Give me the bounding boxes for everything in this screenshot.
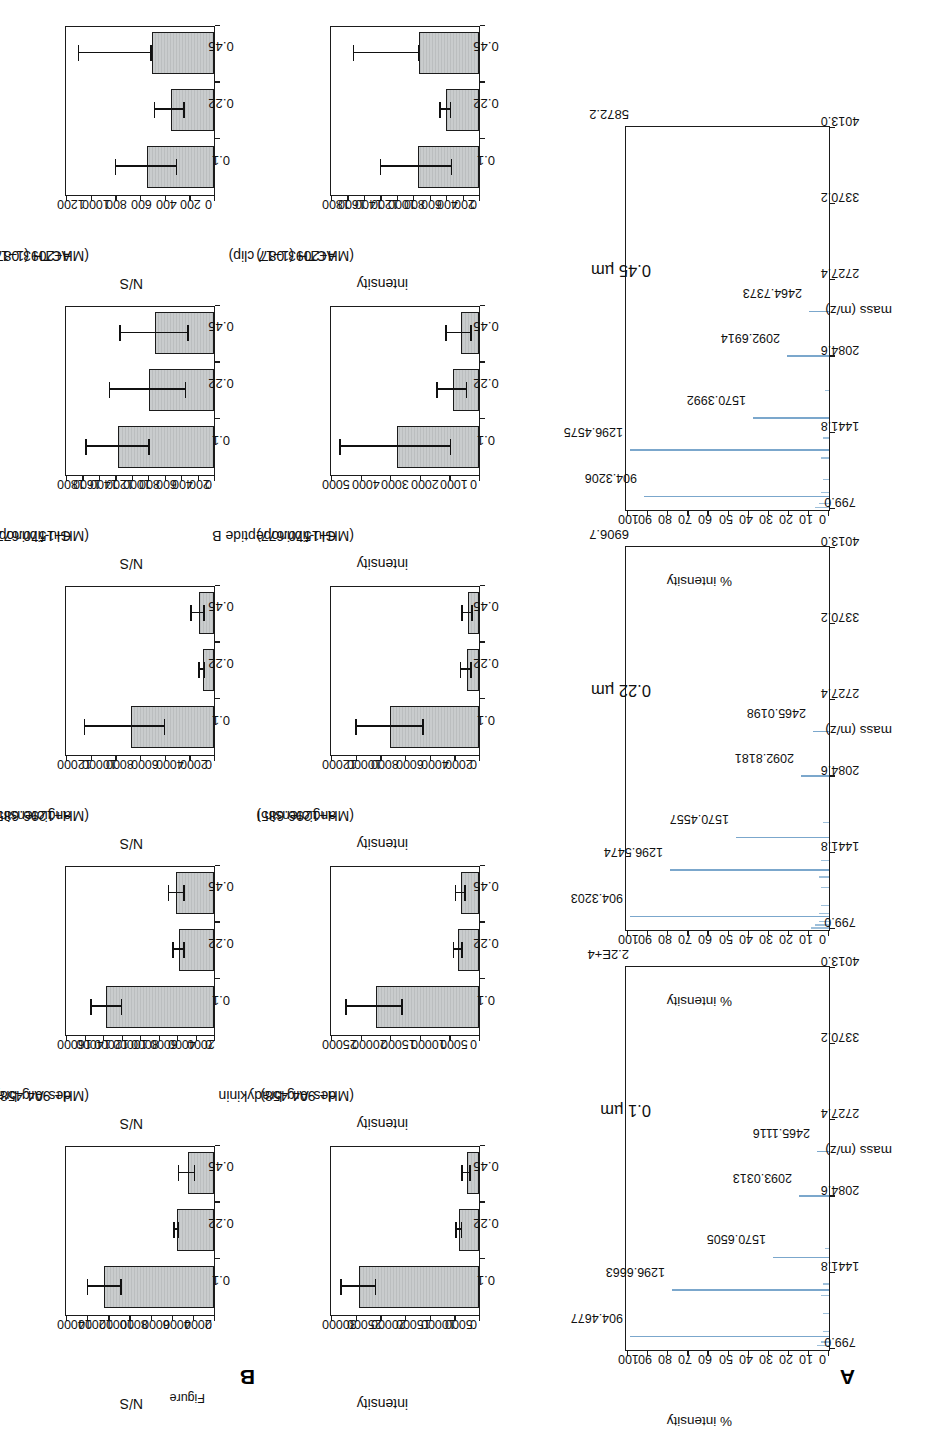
error-bar-cap-lower — [183, 885, 185, 901]
spectrum-peak-label: 904.3206 — [585, 472, 637, 486]
bar-chart-yaxis-label: intensity — [357, 1116, 408, 1132]
bar-chart-frame — [65, 866, 215, 1036]
bar-chart-xtick-mark — [215, 1145, 220, 1146]
spectrum-minor-peak — [823, 1283, 829, 1285]
bar-chart-xtick-label: 0.1 — [464, 1273, 508, 1288]
bar-chart-xtick-mark — [215, 865, 220, 866]
bar-0.1[interactable] — [359, 1266, 479, 1308]
error-bar-cap-upper — [380, 159, 382, 175]
bar-chart-xtick-label: 0.1 — [199, 993, 243, 1008]
bar-chart-frame — [330, 26, 480, 196]
bar-chart-intensity-5: 0.10.220.4518001600140012001000800600400… — [330, 26, 480, 196]
bar-chart-xtick-label: 0.1 — [464, 433, 508, 448]
error-bar-cap-lower — [461, 942, 463, 958]
error-bar-cap-lower — [450, 439, 452, 455]
bar-chart-ytick-label: 0 — [205, 1037, 247, 1051]
error-bar-cap-lower — [418, 45, 420, 61]
error-bar — [85, 725, 165, 727]
error-bar — [438, 389, 467, 391]
error-bar — [88, 1285, 122, 1287]
bar-chart-xtick-mark — [215, 585, 220, 586]
error-bar-cap-upper — [115, 159, 117, 175]
bar-chart-xtick-mark — [215, 361, 220, 362]
spectrum-xtick-label: 2727.4 — [816, 686, 864, 700]
bar-chart-xtick-mark — [215, 921, 220, 922]
spectrum-minor-peak — [823, 1331, 829, 1333]
spectrum-minor-peak — [821, 492, 829, 494]
bar-chart-ytick-label: 0 — [470, 757, 512, 771]
spectrum-xtick-label: 4013.0 — [816, 114, 864, 128]
spectrum-peak — [630, 449, 829, 451]
error-bar — [341, 445, 451, 447]
bar-chart-ytick-label: 0 — [470, 1317, 512, 1331]
error-bar — [116, 165, 177, 167]
spectrum-xtick-label: 799.0 — [816, 495, 864, 509]
bar-chart-xtick-label: 0.45 — [199, 599, 243, 614]
spectrum-plot-area — [626, 967, 829, 1350]
error-bar-cap-lower — [148, 439, 150, 455]
bar-chart-xtick-mark — [480, 865, 485, 866]
bar-chart-xtick-mark — [215, 641, 220, 642]
bar-chart-ns-1: 0.10.220.4514000120001000080006000400020… — [65, 1146, 215, 1316]
spectrum-xaxis-title: mass (m/z) — [825, 724, 892, 739]
bar-chart-subtitle: (MH+1296.685) — [256, 807, 354, 824]
bar-chart-frame — [330, 1146, 480, 1316]
bar-chart-yaxis-label: intensity — [357, 1396, 408, 1412]
bar-chart-xtick-label: 0.45 — [199, 319, 243, 334]
error-bar-cap-upper — [353, 45, 355, 61]
spectrum-max-label: 2.2E+4 — [587, 947, 629, 962]
error-bar-cap-upper — [84, 719, 86, 735]
spectrum-title: 0.45 µm — [591, 261, 651, 280]
error-bar-cap-upper — [455, 885, 457, 901]
bar-chart-xtick-label: 0.45 — [464, 319, 508, 334]
spectrum-minor-peak — [821, 457, 829, 459]
bar-chart-ytick-label: 0 — [470, 197, 512, 211]
error-bar — [342, 1285, 376, 1287]
error-bar-cap-upper — [168, 885, 170, 901]
bar-chart-subtitle: (MH+1296.685) — [0, 807, 89, 824]
error-bar — [381, 165, 452, 167]
bar-chart-xtick-mark — [480, 25, 485, 26]
bar-chart-xtick-label: 0.22 — [464, 656, 508, 671]
spectrum-peak — [630, 916, 829, 918]
bar-chart-subtitle: (MH+2093.087) — [256, 247, 354, 264]
bar-chart-intensity-2: 0.10.220.452500020000150001000050000angi… — [330, 866, 480, 1036]
spectrum-peak-label: 2092.8181 — [735, 751, 794, 765]
bar-chart-xtick-mark — [480, 361, 485, 362]
bar-chart-xtick-mark — [215, 81, 220, 82]
panel-letter-b: B — [240, 1365, 255, 1389]
bar-chart-xtick-label: 0.45 — [199, 39, 243, 54]
spectrum-xaxis-title: mass (m/z) — [825, 304, 892, 319]
spectrum-title: 0.22 µm — [591, 681, 651, 700]
error-bar-cap-upper — [453, 942, 455, 958]
bar-chart-xtick-label: 0.1 — [464, 993, 508, 1008]
spectrum-xtick-label: 3370.2 — [816, 190, 864, 204]
spectrum-minor-peak — [823, 437, 829, 439]
mass-spectrum-3: 904.32061296.45751570.39922092.69142464.… — [625, 126, 890, 511]
error-bar-cap-upper — [455, 1222, 457, 1238]
error-bar-cap-upper — [154, 102, 156, 118]
error-bar-cap-lower — [194, 1165, 196, 1181]
spectrum-xtick-label: 2727.4 — [816, 266, 864, 280]
error-bar — [121, 332, 189, 334]
error-bar-cap-upper — [109, 382, 111, 398]
spectrum-xaxis-title: mass (m/z) — [825, 1144, 892, 1159]
spectrum-xtick-label: 3370.2 — [816, 1030, 864, 1044]
bar-chart-xtick-label: 0.45 — [464, 599, 508, 614]
bar-chart-yaxis-label: N/S — [120, 1396, 143, 1412]
mass-spectrum-1: 904.46771296.66631570.65052093.03132465.… — [625, 966, 890, 1351]
bar-chart-yaxis-label: N/S — [120, 276, 143, 292]
bar-chart-ns-5: 0.10.220.45120010008006004002000ACTH (18… — [65, 26, 215, 196]
spectrum-plot-frame — [625, 546, 830, 931]
spectrum-xtick-label: 4013.0 — [816, 534, 864, 548]
bar-chart-frame — [65, 26, 215, 196]
spectrum-peak-label: 2092.6914 — [721, 331, 780, 345]
spectrum-plot-area — [626, 547, 829, 930]
bar-chart-xtick-label: 0.22 — [199, 936, 243, 951]
bar-chart-xtick-mark — [480, 585, 485, 586]
spectrum-xtick-label: 2084.6 — [816, 1183, 864, 1197]
error-bar-cap-upper — [355, 719, 357, 735]
bar-chart-intensity-4: 0.10.220.45500040003000200010000ACTH (1–… — [330, 306, 480, 476]
error-bar-cap-upper — [119, 325, 121, 341]
